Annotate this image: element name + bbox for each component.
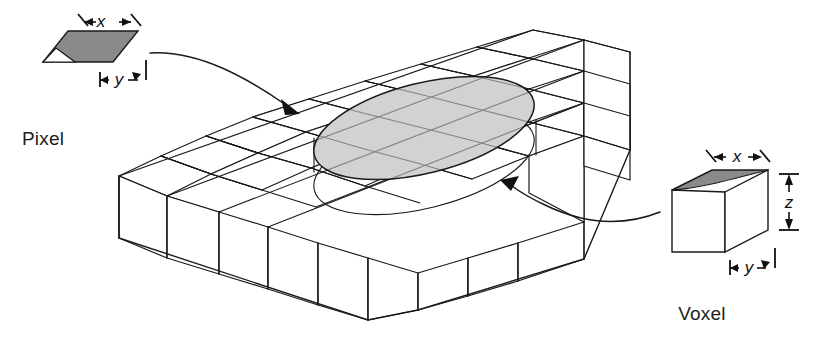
extension-tick xyxy=(760,150,770,162)
extension-tick xyxy=(706,150,716,162)
arrowhead-right xyxy=(122,18,131,26)
arrowhead-left xyxy=(100,76,108,84)
pixel-y-label: y xyxy=(114,70,125,89)
pixel-voxel-diagram: x y Pixel xyxy=(0,0,823,339)
pixel-x-label: x xyxy=(96,12,106,31)
arrowhead-right xyxy=(753,153,762,161)
front-cell xyxy=(219,212,268,289)
front-cell xyxy=(268,227,318,305)
voxel-front-face xyxy=(672,190,725,252)
extension-tick xyxy=(131,14,141,26)
front-cell xyxy=(318,243,368,320)
voxel-z-dimension: z xyxy=(779,174,799,230)
pixel-y-dimension: y xyxy=(100,60,146,89)
pixel-x-dimension: x xyxy=(78,12,141,31)
voxel-callout: x z y Voxel xyxy=(672,147,799,324)
arrowhead-left xyxy=(730,264,738,272)
arrowhead-down xyxy=(785,219,793,230)
pixel-callout: x y Pixel xyxy=(22,12,146,149)
slab-front-face xyxy=(119,176,584,320)
pixel-leader-curve xyxy=(150,53,286,105)
voxel-y-dimension: y xyxy=(730,248,775,277)
extension-tick xyxy=(78,14,88,26)
voxel-y-label: y xyxy=(744,258,755,277)
pixel-leader xyxy=(150,53,300,115)
front-cell xyxy=(368,258,418,320)
voxel-x-label: x xyxy=(732,147,742,166)
arrowhead-up xyxy=(785,174,793,185)
arrowhead-left xyxy=(714,153,723,161)
pixel-caption: Pixel xyxy=(22,128,64,149)
voxel-caption: Voxel xyxy=(678,303,725,324)
voxel-z-label: z xyxy=(784,193,794,212)
voxel-x-dimension: x xyxy=(706,147,770,166)
